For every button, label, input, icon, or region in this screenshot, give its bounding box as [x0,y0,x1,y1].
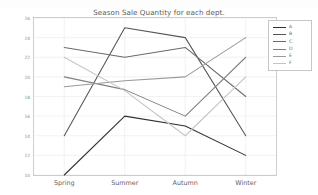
legend-item-d[interactable]: D [273,46,293,53]
y-tick-label: 16 [14,114,30,119]
x-tick-label-winter: Winter [221,179,271,187]
x-tick-label-summer: Summer [100,179,150,187]
legend-label: B [289,32,292,37]
legend-label: D [289,47,293,52]
y-tick-label: 18 [14,94,30,99]
y-tick-label: 12 [14,153,30,158]
legend-item-f[interactable]: F [273,60,292,67]
series-line-b [64,28,246,136]
legend[interactable]: ABCDEF [268,20,312,71]
y-tick-label: 20 [14,74,30,79]
legend-line-swatch-icon [273,27,286,28]
x-tick-label-spring: Spring [39,179,89,187]
legend-item-a[interactable]: A [273,24,292,31]
legend-label: F [289,61,292,66]
series-line-a [64,116,246,175]
y-tick-label: 24 [14,35,30,40]
legend-item-b[interactable]: B [273,31,292,38]
legend-line-swatch-icon [273,34,286,35]
legend-line-swatch-icon [273,41,286,42]
x-tick-label-autumn: Autumn [160,179,210,187]
series-lines [64,28,246,175]
legend-item-e[interactable]: E [273,53,292,60]
legend-label: A [289,25,292,30]
legend-label: C [289,40,292,45]
y-tick-label: 14 [14,133,30,138]
series-line-e [64,38,246,87]
legend-line-swatch-icon [273,56,286,57]
y-tick-label: 26 [14,16,30,21]
legend-label: E [289,54,292,59]
y-tick-label: 22 [14,55,30,60]
legend-item-c[interactable]: C [273,38,292,45]
chart-figure: Season Sale Quantity for each dept. 2624… [0,0,318,195]
legend-line-swatch-icon [273,49,286,50]
legend-line-swatch-icon [273,63,286,64]
y-tick-label: 10 [14,173,30,178]
